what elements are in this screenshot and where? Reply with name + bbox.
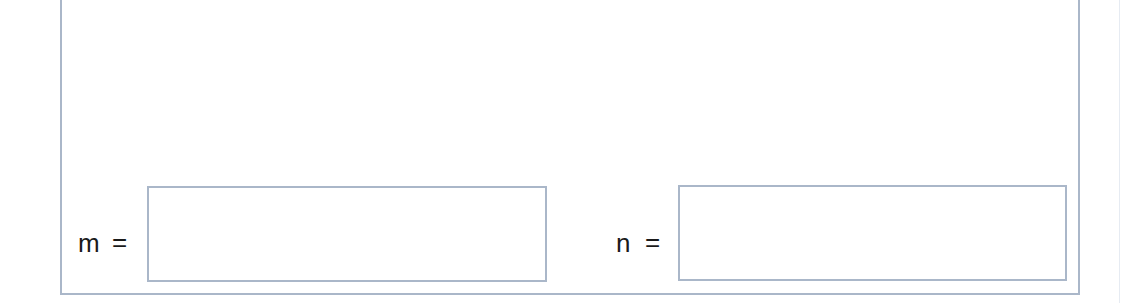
variable-n-label: n [616,230,630,256]
m-answer-input[interactable] [147,186,547,282]
n-answer-input[interactable] [678,185,1067,281]
equals-sign-n: = [645,229,660,255]
equals-sign-m: = [112,229,127,255]
variable-m-label: m [78,230,100,256]
panel-divider [1119,0,1120,303]
